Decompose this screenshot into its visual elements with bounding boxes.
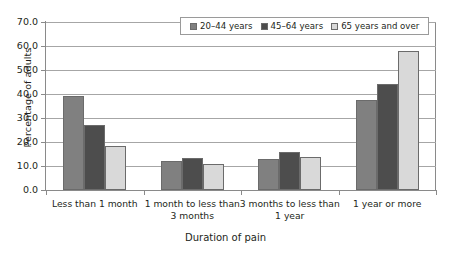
legend-label: 45–64 years	[271, 21, 324, 31]
y-tick-label: 40.0	[0, 88, 38, 99]
bar	[63, 96, 84, 190]
y-tick-label: 20.0	[0, 136, 38, 147]
x-tick-mark	[144, 190, 145, 195]
gridline	[46, 46, 436, 47]
legend-entry: 65 years and over	[331, 21, 419, 31]
x-tick-mark	[241, 190, 242, 195]
y-tick-label: 60.0	[0, 40, 38, 51]
x-category-label-line: 1 year or more	[327, 198, 447, 210]
legend-label: 20–44 years	[200, 21, 253, 31]
bar	[356, 100, 377, 190]
y-tick-label: 70.0	[0, 16, 38, 27]
bar	[279, 152, 300, 190]
x-tick-mark	[436, 190, 437, 195]
bar	[258, 159, 279, 190]
legend-swatch-icon	[331, 23, 338, 30]
legend-swatch-icon	[190, 23, 197, 30]
legend-entry: 45–64 years	[261, 21, 324, 31]
legend: 20–44 years45–64 years65 years and over	[180, 17, 429, 35]
x-axis-title: Duration of pain	[0, 232, 451, 243]
bar-chart: Percentage of adults 0.010.020.030.040.0…	[0, 0, 451, 258]
legend-entry: 20–44 years	[190, 21, 253, 31]
bar	[182, 158, 203, 190]
legend-swatch-icon	[261, 23, 268, 30]
bar	[203, 164, 224, 190]
x-category-label-line: 1 year	[230, 210, 350, 222]
bar	[377, 84, 398, 190]
bar	[161, 161, 182, 190]
legend-label: 65 years and over	[341, 21, 419, 31]
x-tick-mark	[46, 190, 47, 195]
bar	[105, 146, 126, 190]
x-tick-mark	[339, 190, 340, 195]
bar	[398, 51, 419, 190]
x-category-label: 1 year or more	[327, 198, 447, 210]
plot-area	[46, 22, 436, 190]
y-tick-label: 50.0	[0, 64, 38, 75]
y-tick-label: 30.0	[0, 112, 38, 123]
y-tick-label: 10.0	[0, 160, 38, 171]
bar	[300, 157, 321, 190]
bar	[84, 125, 105, 190]
y-tick-label: 0.0	[0, 184, 38, 195]
gridline	[46, 70, 436, 71]
